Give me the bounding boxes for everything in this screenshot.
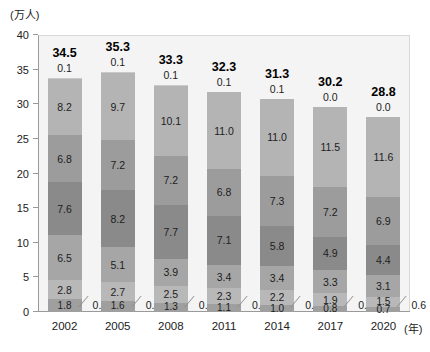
bar-segment-label: 11.5	[313, 142, 347, 153]
bar-segment-label: 1.3	[154, 302, 188, 312]
bar-segment: 11.0	[207, 92, 241, 168]
y-axis-tick-label: 30	[17, 97, 29, 111]
bar-total-label: 31.3	[250, 67, 304, 81]
bar-stack: 11.57.24.93.31.90.8	[313, 107, 347, 312]
bar-total-label: 28.8	[356, 85, 410, 99]
x-axis-tick-label: 2020	[356, 320, 410, 332]
bar-segment: 11.6	[366, 117, 400, 197]
y-axis-tick-label: 25	[17, 132, 29, 146]
bar-segment: 6.8	[48, 135, 82, 182]
bar-top-segment-label: 0.0	[356, 101, 410, 113]
bar-segment: 0.8	[313, 306, 347, 312]
y-axis-tick-label: 15	[17, 201, 29, 215]
bars-layer: 8.26.87.66.52.81.834.50.10.89.77.28.25.1…	[38, 35, 410, 312]
bar-segment-label: 5.8	[260, 241, 294, 252]
bar-segment-label: 11.0	[260, 132, 294, 143]
x-axis-tick-label: 2008	[144, 320, 198, 332]
x-axis-tick-label: 2017	[303, 320, 357, 332]
bar-top-segment-label: 0.0	[303, 91, 357, 103]
bar-group[interactable]: 11.57.24.93.31.90.830.20.00.5	[313, 107, 347, 312]
bar-group[interactable]: 10.17.27.73.92.51.333.30.10.6	[154, 85, 188, 312]
bar-segment-label: 4.4	[366, 255, 400, 266]
bar-segment-label: 3.4	[207, 271, 241, 282]
bar-segment: 6.8	[207, 169, 241, 216]
bar-segment-label: 6.5	[48, 252, 82, 263]
bar-segment: 5.1	[101, 247, 135, 282]
bar-segment-label: 6.8	[207, 187, 241, 198]
bar-segment-callout: 0.6	[400, 291, 430, 311]
bar-segment-label: 11.6	[366, 152, 400, 163]
bar-stack: 9.77.28.25.12.71.6	[101, 72, 135, 312]
bar-segment: 7.6	[48, 182, 82, 235]
bar-top-segment-label: 0.1	[91, 56, 145, 68]
bar-segment-label: 2.8	[48, 285, 82, 296]
x-axis-tick-label: 2002	[38, 320, 92, 332]
bar-segment: 7.2	[154, 156, 188, 206]
y-axis-tick-label: 40	[17, 28, 29, 42]
bar-top-segment-label: 0.1	[38, 62, 92, 74]
bar-stack: 10.17.27.73.92.51.3	[154, 85, 188, 312]
bar-segment-label: 2.3	[207, 291, 241, 302]
bar-stack: 11.06.87.13.42.31.1	[207, 92, 241, 312]
bar-stack: 11.66.94.43.11.50.7	[366, 117, 400, 312]
bar-segment-label: 7.2	[313, 206, 347, 217]
bar-group[interactable]: 11.66.94.43.11.50.728.80.00.6	[366, 117, 400, 312]
bar-segment: 8.2	[101, 190, 135, 247]
bar-segment: 10.1	[154, 86, 188, 156]
bar-segment: 1.8	[48, 299, 82, 311]
bar-group[interactable]: 11.07.35.83.42.21.031.30.10.6	[260, 99, 294, 312]
y-axis: 0510152025303540	[0, 0, 38, 352]
bar-segment-label: 4.9	[313, 248, 347, 259]
bar-segment-label: 11.0	[207, 125, 241, 136]
bar-total-label: 30.2	[303, 75, 357, 89]
bar-segment-label: 3.9	[154, 267, 188, 278]
bar-group[interactable]: 9.77.28.25.12.71.635.30.10.7	[101, 72, 135, 312]
bar-total-label: 32.3	[197, 60, 251, 74]
bar-segment: 6.5	[48, 235, 82, 280]
bar-segment-label: 0.8	[313, 304, 347, 314]
x-axis: (年) 2002200520082011201420172020	[38, 314, 410, 338]
bar-segment-label: 6.8	[48, 154, 82, 165]
bar-segment: 2.8	[48, 280, 82, 299]
bar-segment: 4.4	[366, 245, 400, 275]
bar-segment-label: 2.2	[260, 292, 294, 303]
bar-segment-label: 8.2	[48, 102, 82, 113]
bar-segment: 6.9	[366, 197, 400, 245]
bar-total-label: 33.3	[144, 53, 198, 67]
bar-segment-label: 6.9	[366, 216, 400, 227]
bar-segment: 1.1	[207, 304, 241, 312]
bar-segment: 7.2	[313, 187, 347, 237]
y-axis-tick-label: 10	[17, 236, 29, 250]
bar-segment: 1.0	[260, 305, 294, 312]
bar-segment: 0.7	[366, 307, 400, 312]
bar-segment-label: 9.7	[101, 101, 135, 112]
x-axis-tick-label: 2014	[250, 320, 304, 332]
bar-segment-label: 5.1	[101, 259, 135, 270]
bar-stack: 8.26.87.66.52.81.8	[48, 78, 82, 312]
bar-segment: 4.9	[313, 237, 347, 271]
bar-segment-label: 3.3	[313, 277, 347, 288]
bar-segment-label: 3.4	[260, 273, 294, 284]
bar-stack: 11.07.35.83.42.21.0	[260, 99, 294, 312]
bar-segment-label: 7.1	[207, 235, 241, 246]
bar-segment: 7.7	[154, 205, 188, 258]
bar-segment-label: 1.0	[260, 304, 294, 314]
bar-segment: 7.2	[101, 140, 135, 190]
bar-group[interactable]: 11.06.87.13.42.31.132.30.10.6	[207, 92, 241, 312]
bar-segment: 9.7	[101, 73, 135, 140]
bar-segment-label: 3.1	[366, 281, 400, 292]
bar-segment: 1.6	[101, 301, 135, 312]
bar-segment-label: 7.2	[154, 175, 188, 186]
y-axis-tick-label: 35	[17, 63, 29, 77]
bar-total-label: 35.3	[91, 40, 145, 54]
bar-total-label: 34.5	[38, 46, 92, 60]
y-axis-tick-label: 20	[17, 167, 29, 181]
bar-segment: 1.3	[154, 303, 188, 312]
bar-segment-label: 7.6	[48, 204, 82, 215]
y-axis-tick-label: 5	[23, 270, 29, 284]
bar-group[interactable]: 8.26.87.66.52.81.834.50.10.8	[48, 78, 82, 312]
bar-segment: 3.4	[207, 265, 241, 289]
bar-top-segment-label: 0.1	[250, 83, 304, 95]
callout-value-label: 0.6	[411, 299, 426, 311]
